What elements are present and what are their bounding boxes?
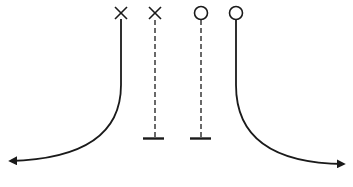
circle-icon [195, 7, 208, 20]
route-x1-curve-left [10, 19, 121, 161]
play-diagram [0, 0, 353, 187]
player-x1 [10, 7, 127, 161]
x-icon [115, 7, 127, 19]
circle-icon [230, 7, 243, 20]
route-o2-curve-right [236, 20, 344, 164]
player-x2 [143, 7, 164, 139]
player-o2 [230, 7, 345, 165]
player-o1 [190, 7, 211, 139]
x-icon [149, 7, 161, 19]
